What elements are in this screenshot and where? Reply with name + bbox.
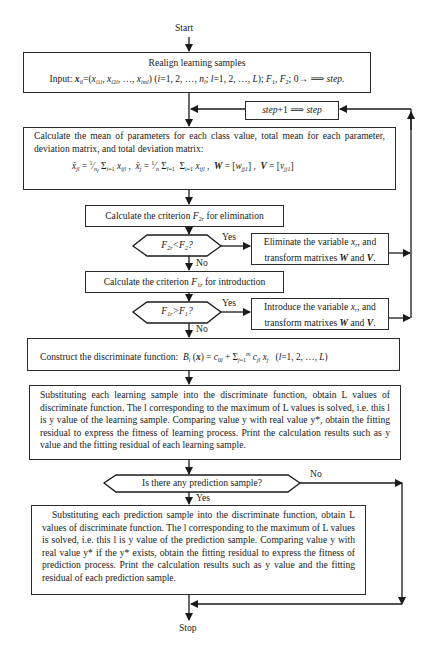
decision-f2-no: No [196,257,208,268]
start-terminal: Start [175,22,193,33]
decision-prediction-text: Is there any prediction sample? [104,477,300,488]
criterion-f2-box: Calculate the criterion F2r for eliminat… [85,205,284,227]
learning-sample-text: Substituting each learning sample into t… [40,389,390,452]
criterion-f1-text: Calculate the criterion F1r for introduc… [86,276,283,292]
eliminate-variable-text: Eliminate the variable xr, andtransform … [252,236,388,264]
introduce-variable-box: Introduce the variable xr, andtransform … [251,298,389,330]
decision-f1-no: No [196,323,208,334]
calculate-mean-box: Calculate the mean of parameters for eac… [23,127,396,190]
mean-formula: x̄jl = 1⁄nl Σi=1 xijl , x̄j = 1⁄n Σl=1 Σ… [72,160,385,174]
realign-input-line: Input: xil=(xi1l, xi2l, …, ximl) (i=1, 2… [24,73,370,89]
decision-f1-yes: Yes [222,297,236,308]
decision-prediction-yes: Yes [196,492,210,503]
eliminate-variable-box: Eliminate the variable xr, andtransform … [251,233,389,265]
learning-sample-box: Substituting each learning sample into t… [29,385,401,460]
prediction-sample-text: Substituting each prediction sample into… [42,509,355,585]
decision-f1-text: F1r>F1? [133,305,221,317]
step-increment-label: step+1 ⟹ step [246,104,338,117]
discriminate-formula: Bl (x) = c0l + Σj=1m cjl xj (l=1, 2, …, … [183,352,328,362]
decision-f2-yes: Yes [222,231,236,242]
calculate-mean-text: Calculate the mean of parameters for eac… [34,130,385,155]
decision-prediction-no: No [310,468,322,479]
criterion-f1-box: Calculate the criterion F1r for introduc… [85,271,284,293]
introduce-variable-text: Introduce the variable xr, andtransform … [252,301,388,329]
criterion-f2-text: Calculate the criterion F2r for eliminat… [86,210,283,226]
realign-samples-box: Realign learning samples Input: xil=(xi1… [23,52,371,93]
construct-function-text: Construct the discriminate function: Bl … [40,348,399,367]
construct-function-label: Construct the discriminate function: [40,351,178,362]
realign-title: Realign learning samples [24,57,370,70]
stop-terminal: Stop [179,622,197,633]
prediction-sample-box: Substituting each prediction sample into… [31,505,366,595]
decision-f2-text: F2r<F2? [133,239,221,251]
step-increment-box: step+1 ⟹ step [245,101,339,120]
construct-function-box: Construct the discriminate function: Bl … [27,338,400,371]
